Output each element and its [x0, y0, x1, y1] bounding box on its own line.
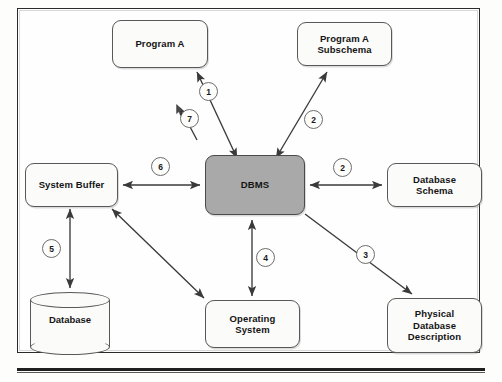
node-system-buffer-label: System Buffer: [35, 179, 109, 191]
step-badge-6: 6: [151, 157, 170, 176]
node-database-label: Database: [30, 314, 110, 325]
step-badge-4-label: 4: [263, 253, 268, 263]
bottom-rule: [17, 368, 485, 371]
step-badge-2-subschema-label: 2: [311, 115, 316, 125]
step-badge-2-subschema: 2: [304, 110, 323, 129]
node-operating-system[interactable]: Operating System: [205, 300, 300, 348]
step-badge-4: 4: [256, 248, 275, 267]
step-badge-3: 3: [356, 245, 375, 264]
step-badge-1-label: 1: [206, 87, 211, 97]
database-cylinder-top: [30, 292, 110, 308]
node-program-a-subschema[interactable]: Program A Subschema: [297, 22, 392, 66]
figure-canvas: Program A Program A Subschema System Buf…: [0, 0, 502, 382]
arrow-buffer-os: [112, 209, 204, 298]
database-cylinder-bottom: [30, 339, 110, 355]
step-badge-1: 1: [199, 82, 218, 101]
node-database-schema[interactable]: Database Schema: [387, 163, 482, 207]
node-database-schema-label: Database Schema: [409, 174, 460, 197]
step-badge-2-schema: 2: [333, 158, 352, 177]
bottom-rule-hairline: [17, 372, 485, 373]
step-badge-6-label: 6: [158, 162, 163, 172]
node-program-a-label: Program A: [131, 38, 188, 50]
step-badge-7-label: 7: [187, 114, 192, 124]
node-physical-database-description-label: Physical Database Description: [404, 308, 465, 343]
step-badge-5-label: 5: [49, 244, 54, 254]
step-badge-5: 5: [42, 239, 61, 258]
node-system-buffer[interactable]: System Buffer: [25, 163, 118, 207]
node-program-a-subschema-label: Program A Subschema: [313, 33, 375, 56]
node-dbms[interactable]: DBMS: [205, 155, 305, 215]
node-program-a[interactable]: Program A: [112, 20, 208, 68]
step-badge-2-schema-label: 2: [340, 163, 345, 173]
mouse-cursor-icon: [176, 104, 185, 116]
node-physical-database-description[interactable]: Physical Database Description: [387, 298, 482, 353]
step-badge-3-label: 3: [363, 250, 368, 260]
node-dbms-label: DBMS: [237, 179, 273, 191]
node-operating-system-label: Operating System: [226, 313, 280, 336]
node-database[interactable]: Database: [30, 292, 110, 355]
